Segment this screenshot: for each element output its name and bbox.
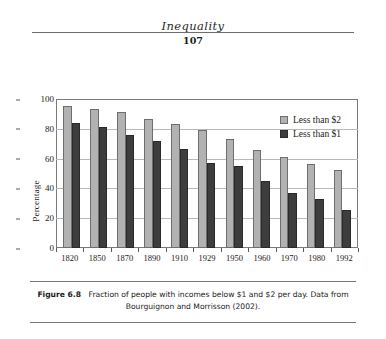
x-axis-labels: 1820185018701890191019291950196019701980… (56, 253, 358, 263)
caption-divider-bottom (30, 322, 356, 323)
bar-series-2 (180, 149, 189, 248)
y-axis-tick-mark (16, 159, 20, 160)
x-axis-tick-mark (331, 248, 332, 252)
x-axis-tick-mark (56, 248, 57, 252)
x-axis-tick-mark (111, 248, 112, 252)
figure-number: Figure 6.8 (37, 290, 88, 299)
x-axis-tick-label: 1992 (331, 253, 357, 263)
x-axis-tick-label: 1820 (57, 253, 83, 263)
x-axis-tick-mark (276, 248, 277, 252)
bar-series-1 (226, 139, 235, 248)
x-axis-tick-mark (166, 248, 167, 252)
y-axis-label: Percentage (31, 161, 41, 241)
y-axis-tick-label: 100 (20, 95, 54, 104)
y-axis-tick-label: 0 (20, 244, 54, 253)
bar-series-1 (307, 164, 316, 248)
plot-area: 020406080100 Less than $2 Less than $1 (56, 99, 358, 248)
bar-series-2 (99, 127, 108, 248)
bar-series-2 (315, 199, 324, 248)
x-axis-tick-mark (138, 248, 139, 252)
bar-series-2 (234, 166, 243, 248)
bar-series-2 (153, 141, 162, 248)
bar-series-1 (171, 124, 180, 248)
chart-legend: Less than $2 Less than $1 (280, 115, 341, 139)
bar-series-1 (117, 112, 126, 248)
x-axis-tick-mark (303, 248, 304, 252)
bar-series-2 (207, 163, 216, 248)
x-axis-tick-mark (358, 248, 359, 252)
bar-series-1 (253, 150, 262, 248)
x-axis-tick-label: 1950 (221, 253, 247, 263)
bar-series-1 (334, 170, 343, 248)
x-axis-tick-marks (56, 248, 358, 252)
bar-group (198, 99, 215, 248)
y-axis-tick-mark (16, 248, 20, 249)
y-axis-tick-label: 40 (20, 184, 54, 193)
legend-item-series-2: Less than $1 (280, 129, 341, 139)
bar-series-1 (280, 157, 289, 248)
caption-divider-top (30, 281, 356, 282)
y-axis-tick-mark (16, 188, 20, 189)
y-axis-tick-label: 60 (20, 154, 54, 163)
figure-chart: Percentage 020406080100 Less than $2 Les… (0, 88, 386, 273)
bar-series-2 (261, 181, 270, 248)
y-axis-tick-mark (16, 218, 20, 219)
x-axis-tick-mark (83, 248, 84, 252)
bar-series-1 (63, 106, 72, 248)
x-axis-tick-label: 1929 (194, 253, 220, 263)
header-divider (32, 32, 354, 33)
legend-item-series-1: Less than $2 (280, 115, 341, 125)
y-axis-tick-mark (16, 129, 20, 130)
x-axis-tick-label: 1870 (112, 253, 138, 263)
figure-caption: Figure 6.8 Fraction of people with incom… (30, 289, 356, 313)
x-axis-tick-label: 1850 (84, 253, 110, 263)
running-head-title: Inequality (162, 19, 225, 33)
x-axis-tick-label: 1970 (276, 253, 302, 263)
x-axis-tick-mark (221, 248, 222, 252)
bar-group (144, 99, 161, 248)
bar-series-2 (126, 135, 135, 248)
bar-group (253, 99, 270, 248)
x-axis-tick-label: 1960 (249, 253, 275, 263)
x-axis-tick-label: 1980 (304, 253, 330, 263)
x-axis-tick-mark (193, 248, 194, 252)
bar-group (226, 99, 243, 248)
bar-group (171, 99, 188, 248)
y-axis-tick-label: 20 (20, 214, 54, 223)
bar-group (90, 99, 107, 248)
legend-swatch-icon-series-2 (280, 130, 288, 138)
legend-swatch-icon-series-1 (280, 116, 288, 124)
bar-series-2 (288, 193, 297, 248)
bar-series-2 (342, 210, 351, 248)
bar-series-1 (198, 130, 207, 248)
y-axis-tick-mark (16, 99, 20, 100)
y-axis-tick-label: 80 (20, 124, 54, 133)
x-axis-tick-label: 1910 (167, 253, 193, 263)
bar-group (63, 99, 80, 248)
bar-series-2 (72, 123, 81, 248)
bar-series-1 (144, 119, 153, 248)
bar-series-1 (90, 109, 99, 248)
legend-label-series-1: Less than $2 (293, 115, 341, 125)
x-axis-tick-label: 1890 (139, 253, 165, 263)
bar-group (117, 99, 134, 248)
caption-text: Fraction of people with incomes below $1… (89, 290, 349, 311)
x-axis: 1820185018701890191019291950196019701980… (56, 248, 358, 270)
page-number: 107 (0, 35, 386, 46)
x-axis-tick-mark (248, 248, 249, 252)
legend-label-series-2: Less than $1 (293, 129, 341, 139)
